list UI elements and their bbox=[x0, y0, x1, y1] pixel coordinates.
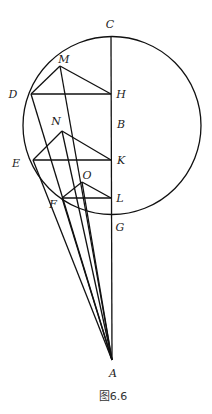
point-label-m: M bbox=[57, 53, 70, 66]
point-label-g: G bbox=[116, 221, 125, 234]
segment-ca bbox=[111, 37, 112, 360]
segment-na bbox=[62, 131, 112, 360]
line-segments bbox=[31, 37, 112, 360]
point-label-o: O bbox=[82, 169, 91, 182]
point-label-e: E bbox=[11, 157, 20, 170]
segment-nk bbox=[62, 131, 111, 160]
point-label-d: D bbox=[8, 88, 18, 101]
point-label-h: H bbox=[115, 88, 126, 101]
point-label-c: C bbox=[106, 18, 115, 31]
point-label-a: A bbox=[108, 367, 117, 380]
figure-caption: 图6.6 bbox=[99, 390, 128, 403]
segment-en bbox=[33, 131, 62, 160]
point-labels: CHBKLGADMENFO bbox=[8, 18, 127, 380]
point-label-b: B bbox=[116, 118, 125, 131]
segment-fo bbox=[62, 182, 82, 198]
geometry-figure-6-6: CHBKLGADMENFO 图6.6 bbox=[0, 0, 212, 414]
point-label-k: K bbox=[116, 154, 126, 167]
point-label-n: N bbox=[50, 115, 61, 128]
segment-ol bbox=[82, 182, 111, 198]
segment-mh bbox=[60, 66, 111, 94]
point-label-f: F bbox=[48, 198, 57, 211]
point-label-l: L bbox=[115, 192, 123, 205]
segment-oa bbox=[82, 182, 112, 360]
